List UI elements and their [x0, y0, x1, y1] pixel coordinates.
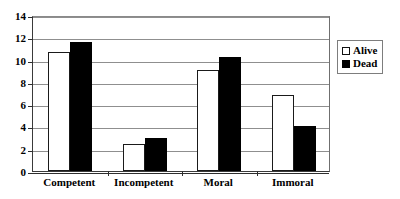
- y-axis-label-4: 4: [2, 122, 26, 133]
- y-tick-12: [28, 39, 33, 40]
- gridline-12: [33, 39, 329, 40]
- legend-item-alive: Alive: [342, 44, 377, 57]
- category-label-immoral: Immoral: [272, 176, 314, 188]
- y-tick-8: [28, 84, 33, 85]
- gridline-0: [33, 173, 329, 174]
- y-tick-4: [28, 128, 33, 129]
- y-tick-0: [28, 173, 33, 174]
- bar-moral-dead: [219, 57, 241, 171]
- bar-moral-alive: [197, 70, 219, 171]
- bar-competent-dead: [70, 42, 92, 171]
- bar-incompetent-dead: [145, 138, 167, 171]
- bar-immoral-dead: [294, 126, 316, 171]
- category-label-moral: Moral: [204, 176, 233, 188]
- bar-competent-alive: [48, 52, 70, 171]
- legend-item-dead: Dead: [342, 57, 377, 70]
- x-tick-3: [257, 171, 258, 176]
- y-tick-2: [28, 151, 33, 152]
- bar-immoral-alive: [272, 95, 294, 171]
- y-axis-label-2: 2: [2, 145, 26, 156]
- x-tick-2: [182, 171, 183, 176]
- y-tick-10: [28, 62, 33, 63]
- bar-chart: 02468101214 CompetentIncompetentMoralImm…: [0, 0, 400, 199]
- y-axis-label-0: 0: [2, 167, 26, 178]
- y-axis-label-6: 6: [2, 100, 26, 111]
- hollow-square-icon: [342, 47, 350, 55]
- category-label-competent: Competent: [43, 176, 95, 188]
- category-label-incompetent: Incompetent: [114, 176, 173, 188]
- y-tick-6: [28, 106, 33, 107]
- legend-label-alive: Alive: [353, 45, 377, 56]
- chart-legend: AliveDead: [337, 40, 383, 74]
- y-axis-label-14: 14: [2, 11, 26, 22]
- y-axis-label-12: 12: [2, 33, 26, 44]
- plot-area: [32, 16, 330, 172]
- legend-label-dead: Dead: [353, 58, 377, 69]
- gridline-14: [33, 17, 329, 18]
- y-axis-label-8: 8: [2, 78, 26, 89]
- x-tick-1: [108, 171, 109, 176]
- filled-square-icon: [342, 60, 350, 68]
- y-tick-14: [28, 17, 33, 18]
- y-axis-label-10: 10: [2, 56, 26, 67]
- bar-incompetent-alive: [123, 144, 145, 171]
